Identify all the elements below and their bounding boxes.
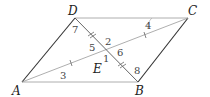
angle-label-5: 5 [89, 42, 95, 53]
vertex-label-a: A [11, 84, 21, 97]
angle-label-4: 4 [145, 20, 151, 31]
side-da [22, 18, 75, 82]
angle-label-3: 3 [60, 70, 66, 81]
angle-label-8: 8 [134, 65, 140, 76]
diagonal-bd [75, 18, 138, 82]
angle-label-1: 1 [103, 53, 109, 64]
vertex-label-d: D [67, 4, 78, 18]
vertex-label-b: B [134, 84, 144, 97]
intersection-label-e: E [92, 62, 102, 76]
vertex-label-c: C [188, 4, 197, 18]
parallelogram-diagram: A B C D E 1 2 3 4 5 6 7 8 [0, 0, 210, 97]
angle-label-7: 7 [72, 24, 78, 35]
angle-label-2: 2 [105, 36, 111, 47]
angle-label-6: 6 [117, 47, 123, 58]
